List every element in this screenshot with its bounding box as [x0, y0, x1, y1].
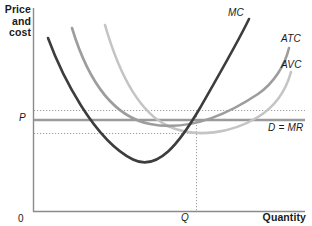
economics-cost-curve-figure: Price and cost Quantity 0 Q P MC ATC AVC…	[0, 0, 312, 226]
atc-curve-label: ATC	[281, 33, 301, 44]
atc-curve	[72, 28, 289, 126]
demand-curve-label: D = MR	[268, 122, 303, 133]
avc-curve-label: AVC	[281, 59, 302, 70]
origin-label: 0	[18, 213, 24, 224]
chart-canvas	[0, 0, 312, 226]
quantity-tick-label: Q	[181, 212, 189, 223]
y-axis-title-line-3: cost	[0, 27, 31, 39]
mc-curve	[48, 19, 249, 162]
mc-curve-label: MC	[228, 7, 244, 18]
y-axis-title-line-1: Price	[0, 4, 31, 16]
x-axis-title: Quantity	[258, 212, 306, 224]
price-tick-label: P	[19, 112, 26, 123]
y-axis-title: Price and cost	[0, 4, 31, 39]
